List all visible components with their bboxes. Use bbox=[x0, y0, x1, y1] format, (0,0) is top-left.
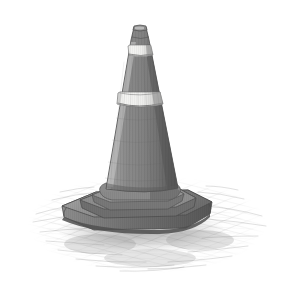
cone-tip-highlight bbox=[135, 27, 144, 30]
artwork-canvas: Pencil drawing of a striped traffic cone… bbox=[0, 0, 290, 301]
traffic-cone-drawing bbox=[0, 0, 290, 301]
upper-stripe bbox=[128, 45, 153, 57]
